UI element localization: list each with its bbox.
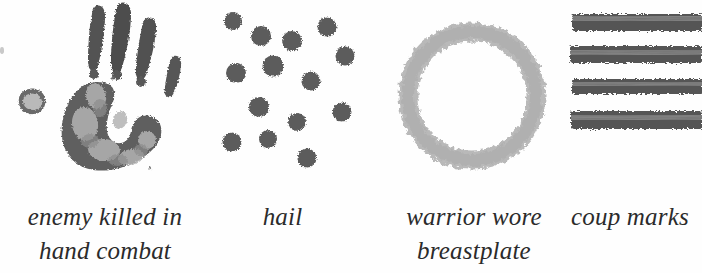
caption-line-1: warrior wore bbox=[390, 200, 558, 234]
caption-line-2: hand combat bbox=[0, 234, 210, 268]
caption-hail: hail bbox=[210, 200, 355, 234]
four-bars-glyph bbox=[558, 0, 702, 190]
pictograph-figure: enemy killed in hand combat bbox=[0, 0, 702, 273]
caption-coup-marks: coup marks bbox=[558, 200, 702, 234]
handprint-glyph bbox=[0, 0, 210, 190]
panel-handprint: enemy killed in hand combat bbox=[0, 0, 210, 273]
caption-handprint: enemy killed in hand combat bbox=[0, 200, 210, 268]
hail-dots-glyph bbox=[210, 0, 355, 190]
caption-line-2: breastplate bbox=[390, 234, 558, 268]
panel-breastplate: warrior wore breastplate bbox=[390, 0, 558, 273]
caption-breastplate: warrior wore breastplate bbox=[390, 200, 558, 268]
caption-line-1: coup marks bbox=[558, 200, 702, 234]
caption-line-1: hail bbox=[210, 200, 355, 234]
panel-coup-marks: coup marks bbox=[558, 0, 702, 273]
panel-hail: hail bbox=[210, 0, 355, 273]
caption-line-1: enemy killed in bbox=[0, 200, 210, 234]
ring-glyph bbox=[390, 0, 558, 190]
